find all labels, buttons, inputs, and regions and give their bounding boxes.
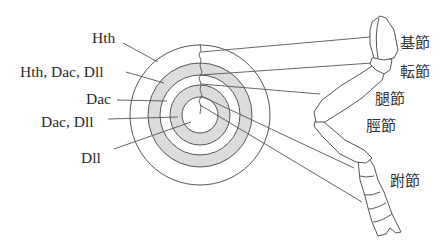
leg-coxa <box>370 16 398 60</box>
diagram-canvas: Hth Hth, Dac, Dll Dac Dac, Dll Dll 基節 転節… <box>0 0 446 246</box>
label-femur: 腿節 <box>375 90 405 108</box>
label-hth: Hth <box>92 29 116 46</box>
label-tibia: 脛節 <box>366 117 396 135</box>
leader-hth-dac-dll <box>126 72 164 83</box>
leg-tarsus <box>358 157 401 236</box>
label-hth-dac-dll: Hth, Dac, Dll <box>20 63 104 80</box>
leader-dac-dll <box>108 117 178 119</box>
label-coxa: 基節 <box>400 34 430 52</box>
leg-tibia <box>314 118 372 163</box>
label-dac: Dac <box>86 90 111 107</box>
shaded-ring-hth-dac-dll <box>148 63 252 167</box>
label-dac-dll: Dac, Dll <box>41 113 94 130</box>
leg-disc-diagram: Hth Hth, Dac, Dll Dac Dac, Dll Dll 基節 転節… <box>0 0 446 246</box>
label-tarsus: 跗節 <box>390 172 420 190</box>
label-trochanter: 転節 <box>400 63 430 81</box>
imaginal-disc <box>130 44 270 185</box>
leader-to-coxa <box>201 37 370 52</box>
disc-labels: Hth Hth, Dac, Dll Dac Dac, Dll Dll <box>20 29 116 166</box>
leader-to-trochanter <box>201 63 372 75</box>
label-dll: Dll <box>81 149 101 166</box>
radial-fold-line <box>199 44 202 114</box>
leader-hth <box>123 43 158 62</box>
